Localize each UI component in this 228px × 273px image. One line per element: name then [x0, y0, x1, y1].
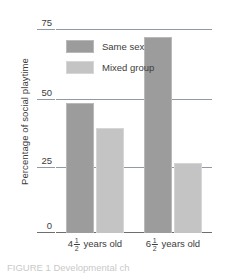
legend-swatch-same-sex	[66, 40, 94, 53]
y-tick-label-25: 25	[28, 156, 52, 166]
chart-legend: Same sex Mixed group	[66, 38, 154, 80]
legend-item-same-sex: Same sex	[66, 38, 154, 55]
x-tick-label-4-5: 412years old	[68, 236, 122, 251]
x-label-fraction-2: 12	[152, 237, 158, 252]
bar-mixed-group-6-5	[174, 163, 202, 233]
x-label-unit-2: years old	[162, 238, 201, 249]
fraction-numerator-2: 1	[152, 237, 158, 245]
x-label-whole-1: 4	[68, 238, 73, 249]
bar-mixed-group-4-5	[96, 128, 124, 233]
fraction-denominator-2: 2	[152, 245, 158, 252]
x-label-unit-1: years old	[84, 238, 123, 249]
x-label-whole-2: 6	[146, 238, 151, 249]
legend-swatch-mixed-group	[66, 61, 94, 74]
y-tick-label-50: 50	[28, 88, 52, 98]
legend-label-same-sex: Same sex	[102, 41, 144, 52]
fraction-numerator-1: 1	[74, 237, 80, 245]
tick-stub-75	[37, 29, 55, 30]
y-tick-label-0: 0	[28, 221, 52, 231]
x-axis-labels: 412years old 612years old	[56, 236, 212, 256]
fraction-denominator-1: 2	[74, 245, 80, 252]
x-label-fraction-1: 12	[74, 237, 80, 252]
legend-label-mixed-group: Mixed group	[102, 62, 154, 73]
tick-stub-50	[37, 99, 55, 100]
y-tick-label-75: 75	[28, 18, 52, 28]
bar-same-sex-4-5	[66, 103, 94, 233]
legend-item-mixed-group: Mixed group	[66, 59, 154, 76]
figure-caption: FIGURE 1 Developmental ch	[7, 262, 228, 273]
y-axis-title: Percentage of social playtime	[19, 37, 30, 207]
tick-stub-25	[37, 167, 55, 168]
tick-stub-0	[37, 232, 55, 233]
x-tick-label-6-5: 612years old	[146, 236, 200, 251]
